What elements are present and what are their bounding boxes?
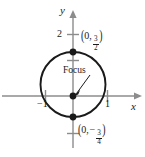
point-bottom-comma: , bbox=[86, 124, 89, 135]
fraction-three-halves: 32 bbox=[93, 36, 99, 52]
fraction-numerator: 3 bbox=[93, 36, 99, 43]
close-paren-top: ) bbox=[99, 29, 102, 43]
x-axis-label: x bbox=[131, 101, 136, 112]
fraction-numerator: 3 bbox=[96, 130, 102, 137]
figure-canvas bbox=[0, 0, 145, 157]
point-label-bottom: (0, −34) bbox=[78, 125, 106, 146]
point-bottom-sign: − bbox=[90, 124, 96, 135]
open-paren-bottom: ( bbox=[78, 123, 81, 137]
y-axis-arrowhead bbox=[69, 10, 76, 18]
point-top-vertex bbox=[70, 49, 77, 56]
fraction-three-quarters: 34 bbox=[96, 130, 102, 146]
point-focus-origin bbox=[70, 93, 77, 100]
point-label-top: (0, 32) bbox=[81, 31, 102, 52]
x-tick-label-minus-1: −1 bbox=[37, 99, 48, 109]
focus-leader-line bbox=[77, 75, 91, 94]
point-top-comma: , bbox=[89, 30, 92, 41]
close-paren-bottom: ) bbox=[102, 123, 105, 137]
open-paren-top: ( bbox=[81, 29, 84, 43]
point-bottom-vertex bbox=[70, 114, 77, 121]
fraction-denominator: 2 bbox=[93, 44, 99, 52]
x-tick-label-1: 1 bbox=[105, 99, 110, 109]
math-figure-circle-focus: y x 2 −1 1 Focus (0, 32) (0, −34) bbox=[0, 0, 145, 157]
fraction-denominator: 4 bbox=[96, 138, 102, 146]
y-tick-label-2: 2 bbox=[57, 29, 62, 39]
x-axis-arrowhead bbox=[134, 92, 142, 99]
y-axis-label: y bbox=[60, 5, 65, 16]
focus-annotation-label: Focus bbox=[63, 66, 86, 76]
